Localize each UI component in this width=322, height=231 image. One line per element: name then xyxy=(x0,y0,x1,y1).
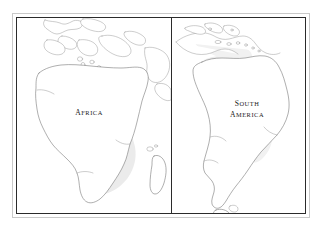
arabia-coastline xyxy=(145,47,171,100)
africa-outline xyxy=(36,65,149,203)
map-panel-africa: AFRICA xyxy=(17,18,171,214)
central-america-coastline xyxy=(176,23,280,55)
map-panel-south-america: SOUTH AMERICA xyxy=(172,18,305,214)
africa-map-svg: AFRICA xyxy=(17,18,171,214)
figure-inner-frame: AFRICA xyxy=(16,17,306,214)
africa-label: AFRICA xyxy=(75,108,103,117)
south-america-outline xyxy=(193,56,289,209)
south-america-label-line1: SOUTH xyxy=(235,99,260,108)
south-america-label-line2: AMERICA xyxy=(230,110,264,119)
south-america-map-svg: SOUTH AMERICA xyxy=(172,18,305,214)
europe-coastline xyxy=(44,19,146,72)
map-figure: AFRICA xyxy=(0,0,322,231)
madagascar-outline xyxy=(147,145,166,194)
